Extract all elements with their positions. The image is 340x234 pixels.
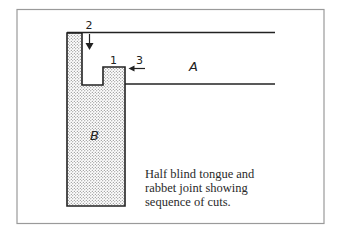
cut-label-2: 2: [86, 19, 93, 32]
caption-line: rabbet joint showing: [145, 181, 315, 195]
figure-caption: Half blind tongue and rabbet joint showi…: [145, 167, 315, 209]
cut-label-1: 1: [110, 54, 117, 67]
piece-label-b: B: [90, 128, 99, 143]
piece-label-a: A: [188, 59, 198, 74]
caption-line: Half blind tongue and: [145, 167, 315, 181]
caption-line: sequence of cuts.: [145, 195, 315, 209]
arrow-down-icon: [86, 34, 94, 50]
cut-label-3: 3: [136, 54, 143, 67]
